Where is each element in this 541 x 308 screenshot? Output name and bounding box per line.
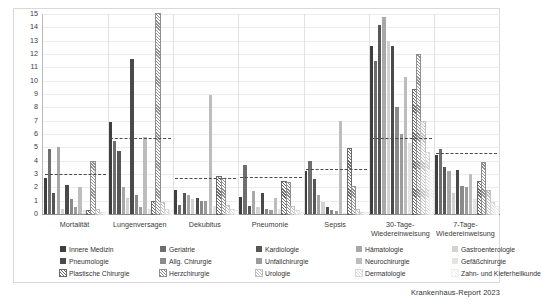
bar bbox=[87, 211, 90, 214]
legend-item[interactable]: Geriatrie bbox=[160, 243, 252, 255]
legend-item[interactable]: Kardiologie bbox=[256, 243, 352, 255]
legend-item[interactable]: Gefäßchirurgie bbox=[452, 255, 541, 267]
bar bbox=[304, 171, 307, 214]
bar bbox=[460, 186, 463, 214]
legend-swatch-icon bbox=[256, 246, 262, 252]
group-separator bbox=[173, 14, 174, 214]
bar bbox=[239, 197, 242, 214]
bar bbox=[52, 193, 55, 214]
legend-item[interactable]: Unfallchirurgie bbox=[256, 255, 352, 267]
bar bbox=[187, 195, 190, 214]
bar bbox=[135, 195, 138, 214]
bar bbox=[204, 201, 207, 214]
legend-item[interactable]: Allg. Chirurgie bbox=[160, 255, 252, 267]
bar bbox=[222, 179, 225, 214]
bar-group bbox=[304, 14, 369, 214]
bar bbox=[282, 182, 285, 214]
legend-item-label: Geriatrie bbox=[169, 246, 195, 253]
legend-swatch-icon bbox=[256, 258, 262, 264]
bar bbox=[139, 207, 142, 214]
y-axis-tick-label: 1 bbox=[34, 197, 38, 204]
bar bbox=[321, 202, 324, 214]
bar bbox=[443, 167, 446, 214]
bar bbox=[343, 213, 346, 214]
legend-item[interactable]: Zahn- und Kieferheilkunde bbox=[452, 267, 541, 279]
y-axis-tick-label: 3 bbox=[34, 170, 38, 177]
y-axis-tick-label: 15 bbox=[30, 10, 38, 17]
legend-item[interactable]: Herzchirurgie bbox=[160, 267, 252, 279]
chart-legend: Innere MedizinPneumologiePlastische Chir… bbox=[60, 243, 490, 279]
legend-item[interactable]: Pneumologie bbox=[60, 255, 156, 267]
bar bbox=[152, 202, 155, 214]
bar bbox=[261, 193, 264, 214]
y-axis-tick-label: 11 bbox=[31, 64, 38, 71]
bar bbox=[104, 213, 107, 214]
bar bbox=[274, 198, 277, 214]
bar-group bbox=[173, 14, 238, 214]
legend-item[interactable]: Urologie bbox=[256, 267, 352, 279]
legend-item-label: Herzchirurgie bbox=[169, 270, 209, 277]
legend-item-label: Zahn- und Kieferheilkunde bbox=[461, 270, 541, 277]
bar bbox=[404, 77, 407, 214]
legend-item[interactable]: Dermatologie bbox=[356, 267, 448, 279]
bar bbox=[78, 187, 81, 214]
bar bbox=[291, 207, 294, 214]
bar bbox=[387, 41, 390, 214]
group-separator bbox=[238, 14, 239, 214]
bar bbox=[243, 165, 246, 214]
bar bbox=[430, 171, 433, 214]
bar bbox=[434, 155, 437, 214]
bar bbox=[209, 95, 212, 214]
bar bbox=[44, 178, 47, 214]
source-footer: Krankenhaus-Report 2023 bbox=[411, 288, 500, 297]
group-separator bbox=[434, 14, 435, 214]
bar bbox=[174, 190, 177, 214]
y-axis-tick-label: 13 bbox=[30, 37, 38, 44]
legend-item[interactable]: Hämatologie bbox=[356, 243, 448, 255]
bar bbox=[217, 177, 220, 214]
x-axis-label: Lungenversagen bbox=[107, 220, 172, 229]
bar bbox=[391, 46, 394, 214]
legend-item[interactable]: Plastische Chirurgie bbox=[60, 267, 156, 279]
legend-item-label: Pneumologie bbox=[69, 258, 109, 265]
bar bbox=[408, 143, 411, 214]
bar bbox=[252, 191, 255, 214]
y-axis-tick-label: 5 bbox=[34, 144, 38, 151]
legend-item[interactable]: Innere Medizin bbox=[60, 243, 156, 255]
bar bbox=[491, 203, 494, 214]
x-axis-label: Dekubitus bbox=[172, 220, 237, 229]
bar bbox=[48, 149, 51, 214]
bar bbox=[308, 161, 311, 214]
bar bbox=[191, 199, 194, 214]
bar bbox=[65, 185, 68, 214]
bar bbox=[235, 211, 238, 214]
group-separator bbox=[108, 14, 109, 214]
legend-swatch-icon bbox=[452, 258, 458, 264]
bar bbox=[213, 206, 216, 214]
bar bbox=[109, 122, 112, 214]
y-axis: 0123456789101112131415 bbox=[20, 14, 40, 219]
bar bbox=[100, 213, 103, 214]
y-axis-tick-label: 14 bbox=[30, 24, 38, 31]
bar bbox=[356, 210, 359, 214]
legend-item-label: Gastroenterologie bbox=[461, 246, 515, 253]
bar bbox=[295, 211, 298, 214]
bar bbox=[465, 187, 468, 214]
bar bbox=[226, 206, 229, 214]
bar bbox=[183, 193, 186, 214]
bar bbox=[361, 213, 364, 214]
legend-item[interactable]: Neurochirurgie bbox=[356, 255, 448, 267]
bar bbox=[130, 59, 133, 214]
y-axis-tick-label: 7 bbox=[34, 117, 38, 124]
legend-item-label: Allg. Chirurgie bbox=[169, 258, 212, 265]
legend-item-label: Neurochirurgie bbox=[365, 258, 410, 265]
legend-item[interactable]: Gastroenterologie bbox=[452, 243, 541, 255]
bar-group bbox=[108, 14, 173, 214]
bar-group bbox=[43, 14, 108, 214]
y-axis-tick-label: 8 bbox=[34, 104, 38, 111]
legend-item-label: Hämatologie bbox=[365, 246, 403, 253]
bar bbox=[230, 210, 233, 214]
bar-group bbox=[238, 14, 303, 214]
legend-swatch-icon bbox=[452, 246, 458, 252]
